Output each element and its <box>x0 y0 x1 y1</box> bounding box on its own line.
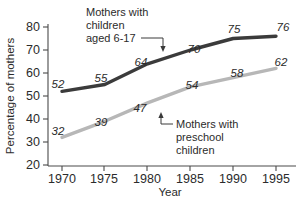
data-label-schoolage-1995: 76 <box>277 21 290 33</box>
data-label-preschool-1975: 39 <box>95 116 108 128</box>
annotation-preschool-line1: Mothers with <box>176 118 238 130</box>
data-label-schoolage-1985: 70 <box>188 43 201 55</box>
x-tick-label-1995: 1995 <box>262 172 290 186</box>
y-axis-title: Percentage of mothers <box>4 38 16 155</box>
annotation-schoolage-line2: children <box>86 19 125 31</box>
annotation-schoolage-line1: Mothers with <box>86 6 148 18</box>
data-label-preschool-1980: 47 <box>134 102 147 114</box>
y-tick-label-50: 50 <box>26 89 40 103</box>
data-label-schoolage-1990: 75 <box>228 23 241 35</box>
annotation-preschool-line3: children <box>176 144 215 156</box>
data-label-preschool-1985: 54 <box>186 79 199 91</box>
annotation-schoolage-line3: aged 6-17 <box>86 32 136 44</box>
annotation-schoolage-arrow-icon <box>160 46 165 52</box>
x-tick-label-1985: 1985 <box>176 172 204 186</box>
y-tick-label-30: 30 <box>26 135 40 149</box>
y-tick-label-80: 80 <box>26 20 40 34</box>
data-label-preschool-1970: 32 <box>52 125 65 137</box>
data-label-schoolage-1980: 64 <box>135 56 148 68</box>
data-label-preschool-1990: 58 <box>231 67 244 79</box>
x-tick-label-1990: 1990 <box>219 172 247 186</box>
line-chart: 80 70 60 50 40 30 20 Percentage of mothe… <box>0 0 302 198</box>
data-label-schoolage-1975: 55 <box>95 72 108 84</box>
annotation-preschool-line2: preschool <box>176 131 224 143</box>
annotation-preschool-arrow-icon <box>158 112 163 118</box>
y-tick-label-40: 40 <box>26 112 40 126</box>
y-tick-label-70: 70 <box>26 43 40 57</box>
annotation-schoolage-leader <box>141 38 163 48</box>
y-tick-label-60: 60 <box>26 66 40 80</box>
chart-canvas: 80 70 60 50 40 30 20 Percentage of mothe… <box>0 0 302 198</box>
x-tick-label-1975: 1975 <box>90 172 118 186</box>
y-tick-label-20: 20 <box>26 158 40 172</box>
x-axis-title: Year <box>158 186 181 198</box>
x-tick-label-1970: 1970 <box>48 172 76 186</box>
data-label-schoolage-1970: 52 <box>52 78 65 90</box>
x-tick-label-1980: 1980 <box>133 172 161 186</box>
data-label-preschool-1995: 62 <box>275 56 288 68</box>
